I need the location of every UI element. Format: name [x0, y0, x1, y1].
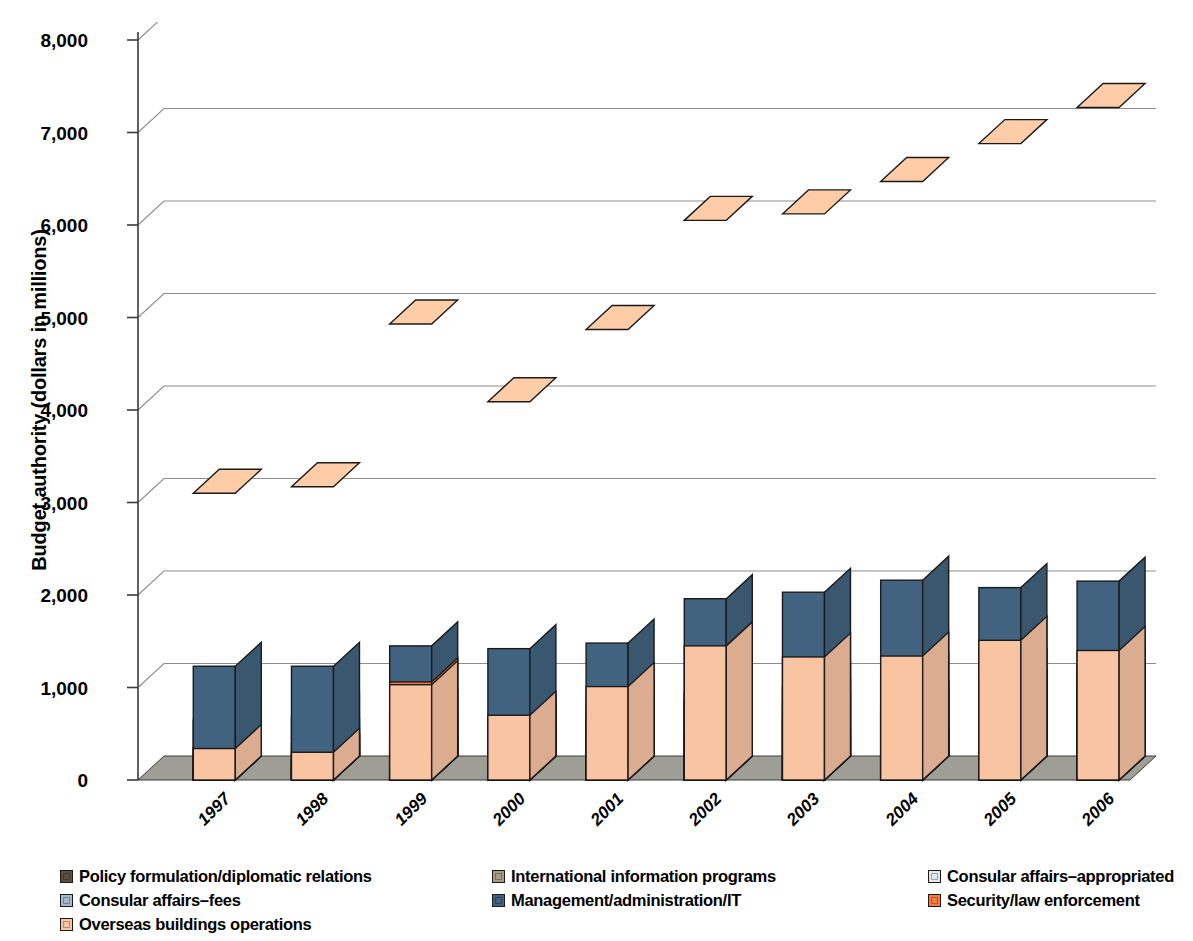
bar-column	[979, 120, 1047, 780]
plot-area	[100, 22, 1163, 812]
y-axis-tick-labels: 01,0002,0003,0004,0005,0006,0007,0008,00…	[0, 22, 88, 812]
y-axis-tick-label: 0	[4, 771, 88, 790]
bar-column	[390, 300, 458, 780]
bar-top-cap	[979, 120, 1047, 144]
legend-swatch-icon	[928, 894, 941, 907]
chart-legend: Policy formulation/diplomatic relationsI…	[60, 864, 1180, 936]
legend-swatch-icon	[60, 870, 73, 883]
legend-item-label: International information programs	[511, 868, 776, 885]
y-axis-tick-label: 2,000	[4, 586, 88, 605]
y-axis-tick-label: 4,000	[4, 401, 88, 420]
bar-segment-front	[979, 640, 1021, 780]
bar-segment-front	[488, 715, 530, 780]
chart-canvas	[100, 22, 1163, 812]
bar-segment-side	[824, 633, 850, 780]
bar-segment-front	[684, 646, 726, 780]
legend-item[interactable]: Security/law enforcement	[928, 888, 1140, 912]
bar-top-cap	[390, 300, 458, 324]
bar-segment-side	[1021, 616, 1047, 780]
legend-swatch-icon	[492, 870, 505, 883]
bar-segment-side	[726, 622, 752, 780]
bar-segment-front	[586, 687, 628, 780]
gridline	[138, 201, 1156, 225]
bar-column	[291, 463, 359, 780]
legend-item-label: Policy formulation/diplomatic relations	[79, 868, 372, 885]
bar-column	[586, 306, 654, 780]
legend-swatch-icon	[928, 870, 941, 883]
bar-top-cap	[782, 190, 850, 214]
bar-top-cap	[881, 158, 949, 182]
legend-item[interactable]: Consular affairs–fees	[60, 888, 241, 912]
legend-item[interactable]: International information programs	[492, 864, 776, 888]
bar-top-cap	[488, 378, 556, 402]
legend-item-label: Overseas buildings operations	[79, 916, 311, 933]
y-axis-tick-label: 7,000	[4, 124, 88, 143]
legend-item[interactable]: Overseas buildings operations	[60, 912, 311, 936]
y-axis-tick-label: 1,000	[4, 679, 88, 698]
y-axis-tick-label: 6,000	[4, 216, 88, 235]
gridline	[138, 479, 1156, 503]
bar-top-cap	[1077, 84, 1145, 108]
legend-item-label: Consular affairs–appropriated	[947, 868, 1174, 885]
legend-item[interactable]: Management/administration/IT	[492, 888, 741, 912]
bar-column	[1077, 84, 1145, 780]
bar-column	[488, 378, 556, 780]
legend-row: Policy formulation/diplomatic relationsI…	[60, 864, 1180, 888]
y-axis-tick-label: 3,000	[4, 494, 88, 513]
bar-segment-front	[193, 749, 235, 780]
bar-segment-front	[782, 657, 824, 780]
bar-segment-side	[1119, 627, 1145, 781]
bar-column	[881, 158, 949, 780]
gridline	[138, 386, 1156, 410]
legend-swatch-icon	[60, 894, 73, 907]
bar-top-cap	[586, 306, 654, 330]
legend-row: Consular affairs–feesManagement/administ…	[60, 888, 1180, 912]
bar-column	[684, 196, 752, 780]
stacked-bar-chart: Budget authority (dollars in millions) 0…	[0, 0, 1193, 941]
bar-column	[782, 190, 850, 780]
y-axis-tick-label: 8,000	[4, 31, 88, 50]
bar-segment-front	[1077, 651, 1119, 781]
bar-segment-front	[291, 752, 333, 780]
legend-item[interactable]: Consular affairs–appropriated	[928, 864, 1174, 888]
bar-top-cap	[193, 469, 261, 493]
bar-top-cap	[291, 463, 359, 487]
legend-item-label: Management/administration/IT	[511, 892, 741, 909]
legend-item-label: Security/law enforcement	[947, 892, 1140, 909]
legend-swatch-icon	[492, 894, 505, 907]
legend-item[interactable]: Policy formulation/diplomatic relations	[60, 864, 372, 888]
bar-top-cap	[684, 196, 752, 220]
legend-row: Overseas buildings operations	[60, 912, 1180, 936]
bar-segment-front	[881, 656, 923, 780]
legend-swatch-icon	[60, 918, 73, 931]
bar-column	[193, 469, 261, 780]
legend-item-label: Consular affairs–fees	[79, 892, 241, 909]
gridline	[138, 22, 1156, 40]
bar-segment-front	[390, 685, 432, 780]
y-axis-tick-label: 5,000	[4, 309, 88, 328]
bar-segment-side	[923, 632, 949, 780]
